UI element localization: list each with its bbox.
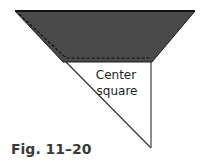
quilt-diagram: Center square	[0, 0, 205, 161]
center-label-line2: square	[97, 84, 138, 98]
shaded-trapezoid	[15, 11, 195, 62]
center-label-line1: Center	[96, 68, 136, 82]
figure-caption: Fig. 11–20	[11, 141, 92, 157]
